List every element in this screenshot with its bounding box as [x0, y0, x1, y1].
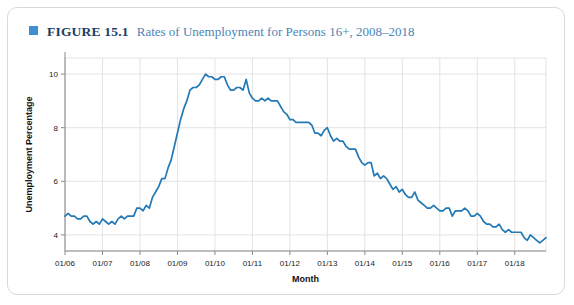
plot-border: [65, 58, 546, 251]
y-axis: 46810: [49, 52, 65, 251]
vertical-gridlines: [65, 58, 515, 251]
x-tick-label: 01/11: [243, 259, 263, 268]
x-tick-label: 01/08: [130, 259, 151, 268]
y-tick-label: 4: [54, 231, 59, 240]
x-axis-title: Month: [292, 274, 319, 284]
x-tick-label: 01/12: [280, 259, 301, 268]
unemployment-line-chart: 46810 01/0601/0701/0801/0901/1001/1101/1…: [8, 8, 566, 296]
y-tick-label: 6: [54, 177, 59, 186]
x-tick-label: 01/18: [505, 259, 526, 268]
x-tick-label: 01/06: [55, 259, 76, 268]
x-tick-label: 01/10: [205, 259, 226, 268]
figure-card: FIGURE 15.1 Rates of Unemployment for Pe…: [7, 7, 565, 295]
data-series-line: [65, 74, 546, 243]
y-axis-title: Unemployment Percentage: [24, 96, 34, 212]
x-tick-label: 01/07: [92, 259, 113, 268]
chart-plot-area: 46810 01/0601/0701/0801/0901/1001/1101/1…: [8, 8, 574, 305]
x-tick-label: 01/16: [430, 259, 451, 268]
x-tick-label: 01/15: [392, 259, 413, 268]
y-tick-label: 8: [54, 124, 59, 133]
x-tick-label: 01/14: [355, 259, 376, 268]
horizontal-gridlines: [65, 74, 546, 235]
x-axis: 01/0601/0701/0801/0901/1001/1101/1201/13…: [55, 251, 546, 268]
x-tick-label: 01/09: [167, 259, 188, 268]
x-tick-label: 01/17: [467, 259, 488, 268]
x-tick-label: 01/13: [317, 259, 338, 268]
y-tick-label: 10: [49, 70, 58, 79]
